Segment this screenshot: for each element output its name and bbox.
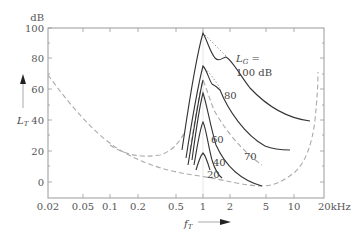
x-tick-labels: 0.02 0.05 0.1 0.2 0.5 1 2 5 10 20kHz <box>37 201 351 212</box>
svg-text:0: 0 <box>38 177 44 188</box>
svg-text:0.05: 0.05 <box>72 201 94 212</box>
masking-chart: 0 20 40 60 80 100 dB 0.02 0.05 0.1 0.2 0… <box>0 0 361 238</box>
svg-text:80: 80 <box>31 53 44 64</box>
svg-text:1: 1 <box>200 201 206 212</box>
svg-text:20kHz: 20kHz <box>318 201 351 212</box>
x-ticks <box>83 28 294 198</box>
curve-annotations: LG = 100 dB 80 70 60 40 20 <box>207 53 272 180</box>
svg-text:40: 40 <box>213 157 226 168</box>
svg-text:100: 100 <box>25 23 44 34</box>
svg-text:60: 60 <box>31 84 44 95</box>
svg-text:LG =: LG = <box>235 53 260 66</box>
threshold-in-quiet-curve <box>48 72 318 186</box>
svg-text:2: 2 <box>227 201 233 212</box>
arrow-right-icon <box>220 219 231 225</box>
curve-lg-inner <box>188 80 203 165</box>
svg-text:10: 10 <box>288 201 301 212</box>
y-axis-label: LT <box>16 74 30 128</box>
svg-text:100 dB: 100 dB <box>236 67 272 78</box>
svg-text:20: 20 <box>31 146 44 157</box>
svg-text:0.02: 0.02 <box>37 201 59 212</box>
curve-lg-80-dotted <box>205 68 220 88</box>
svg-text:5: 5 <box>263 201 269 212</box>
svg-text:0.1: 0.1 <box>102 201 118 212</box>
svg-text:0.2: 0.2 <box>130 201 146 212</box>
curve-lg-100 <box>182 33 310 150</box>
svg-text:20: 20 <box>207 169 220 180</box>
svg-text:40: 40 <box>31 115 44 126</box>
y-tick-labels: 0 20 40 60 80 100 dB <box>25 12 44 188</box>
arrow-up-icon <box>20 74 26 84</box>
svg-text:fT: fT <box>183 218 194 231</box>
svg-text:0.5: 0.5 <box>168 201 184 212</box>
y-unit-label: dB <box>30 12 44 23</box>
x-axis-label: fT <box>183 218 231 231</box>
svg-text:LT: LT <box>16 115 30 128</box>
y-ticks <box>48 28 324 182</box>
svg-text:60: 60 <box>211 134 224 145</box>
svg-text:70: 70 <box>244 151 257 162</box>
masked-threshold-low-curve <box>110 132 185 156</box>
svg-text:80: 80 <box>224 90 237 101</box>
